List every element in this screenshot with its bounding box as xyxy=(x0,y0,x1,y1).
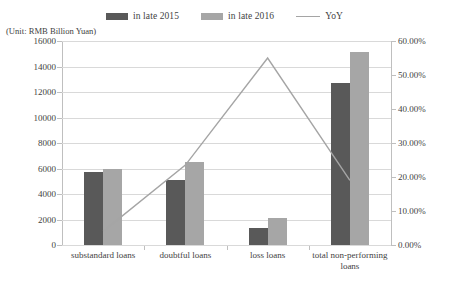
y-axis-right-tick-label: 10.00% xyxy=(398,206,426,216)
y-axis-left-tick-label: 0 xyxy=(52,240,57,250)
legend-item-in-late-2016[interactable]: in late 2016 xyxy=(201,11,274,21)
legend-label-yoy: YoY xyxy=(325,11,343,21)
y-axis-right-tick-label: 20.00% xyxy=(398,172,426,182)
y-axis-left-tick-label: 14000 xyxy=(34,62,57,72)
y-axis-right-tick-label: 30.00% xyxy=(398,138,426,148)
y-axis-left-tick-label: 8000 xyxy=(38,138,56,148)
legend-item-yoy[interactable]: YoY xyxy=(296,11,343,21)
y-axis-right-tick-mark xyxy=(391,109,396,110)
y-axis-left-tick-label: 16000 xyxy=(34,36,57,46)
y-axis-left-tick-label: 12000 xyxy=(34,87,57,97)
x-axis-label-substandard-loans: substandard loans xyxy=(62,250,144,261)
y-axis-right-tick-mark xyxy=(391,245,396,246)
y-axis-right-tick-label: 60.00% xyxy=(398,36,426,46)
yoy-line-series xyxy=(62,41,391,245)
legend-label-in-late-2015: in late 2015 xyxy=(133,11,179,21)
legend-swatch-in-late-2015 xyxy=(106,13,128,20)
y-axis-right-tick-mark xyxy=(391,41,396,42)
chart-container: in late 2015 in late 2016 YoY (Unit: RMB… xyxy=(0,0,449,288)
x-axis-label-loss-loans: loss loans xyxy=(227,250,309,261)
y-axis-right-tick-label: 50.00% xyxy=(398,70,426,80)
y-axis-right-tick-mark xyxy=(391,75,396,76)
legend-label-in-late-2016: in late 2016 xyxy=(228,11,274,21)
y-axis-left-tick-label: 6000 xyxy=(38,164,56,174)
yoy-polyline xyxy=(103,58,350,231)
gridline xyxy=(62,245,391,246)
legend-swatch-in-late-2016 xyxy=(201,13,223,20)
y-axis-right-tick-mark xyxy=(391,143,396,144)
legend-line-yoy xyxy=(296,16,320,17)
y-axis-right-tick-mark xyxy=(391,211,396,212)
chart-legend: in late 2015 in late 2016 YoY xyxy=(0,8,449,24)
y-axis-unit-caption: (Unit: RMB Billion Yuan) xyxy=(6,26,96,36)
x-axis-label-doubtful-loans: doubtful loans xyxy=(144,250,226,261)
y-axis-right-tick-label: 0.00% xyxy=(398,240,421,250)
legend-item-in-late-2015[interactable]: in late 2015 xyxy=(106,11,179,21)
y-axis-right-tick-mark xyxy=(391,177,396,178)
y-axis-left-tick-label: 10000 xyxy=(34,113,57,123)
y-axis-left-tick-label: 2000 xyxy=(38,215,56,225)
y-axis-right-tick-label: 40.00% xyxy=(398,104,426,114)
y-axis-left-tick-label: 4000 xyxy=(38,189,56,199)
plot-area xyxy=(62,41,391,245)
x-axis-label-total-non-performing-loans: total non-performing loans xyxy=(309,250,391,272)
